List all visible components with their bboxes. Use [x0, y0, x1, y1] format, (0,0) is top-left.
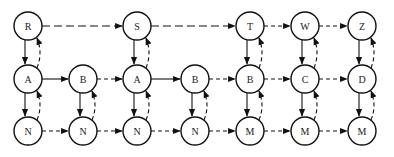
node-r3c3: N [123, 117, 151, 145]
node-r1c1: R [14, 12, 42, 40]
node-r3c2: N [69, 117, 97, 145]
node-label: N [191, 126, 198, 137]
node-r2c4: B [181, 65, 209, 93]
edge-r2c1-to-r1c1 [37, 38, 40, 68]
node-r2c7: D [348, 65, 376, 93]
edge-r3c1-to-r2c1 [37, 91, 40, 120]
node-label: M [246, 126, 255, 137]
node-label: T [247, 21, 253, 32]
node-r1c6: W [291, 12, 319, 40]
node-label: M [301, 126, 310, 137]
edge-r3c6-to-r2c6 [314, 91, 317, 120]
node-label: M [358, 126, 367, 137]
node-r3c6: M [291, 117, 319, 145]
edge-r2c6-to-r1c6 [314, 38, 317, 68]
node-label: N [24, 126, 31, 137]
node-label: W [300, 21, 310, 32]
node-r1c3: S [123, 12, 151, 40]
node-r2c3: A [123, 65, 151, 93]
edge-r2c3-to-r1c3 [146, 38, 149, 68]
node-r2c1: A [14, 65, 42, 93]
node-label: A [133, 74, 141, 85]
node-r2c5: B [236, 65, 264, 93]
node-label: B [247, 74, 254, 85]
node-label: R [25, 21, 32, 32]
node-label: C [302, 74, 309, 85]
node-label: N [133, 126, 140, 137]
edge-r3c4-to-r2c4 [204, 91, 207, 120]
node-r3c1: N [14, 117, 42, 145]
node-label: N [79, 126, 86, 137]
node-label: A [24, 74, 32, 85]
node-r3c5: M [236, 117, 264, 145]
node-label: S [134, 21, 140, 32]
node-label: B [80, 74, 87, 85]
node-label: Z [359, 21, 365, 32]
edge-r2c5-to-r1c5 [259, 38, 262, 68]
edge-r3c3-to-r2c3 [146, 91, 149, 120]
node-r1c5: T [236, 12, 264, 40]
edge-r3c2-to-r2c2 [92, 91, 95, 120]
state-diagram: RSTWZABABBCDNNNNMMM [0, 0, 394, 157]
edge-r3c7-to-r2c7 [371, 91, 374, 120]
node-r3c4: N [181, 117, 209, 145]
edge-r2c7-to-r1c7 [371, 38, 374, 68]
node-r2c6: C [291, 65, 319, 93]
node-r1c7: Z [348, 12, 376, 40]
node-label: D [358, 74, 365, 85]
node-label: B [192, 74, 199, 85]
node-r3c7: M [348, 117, 376, 145]
node-r2c2: B [69, 65, 97, 93]
edge-r3c5-to-r2c5 [259, 91, 262, 120]
